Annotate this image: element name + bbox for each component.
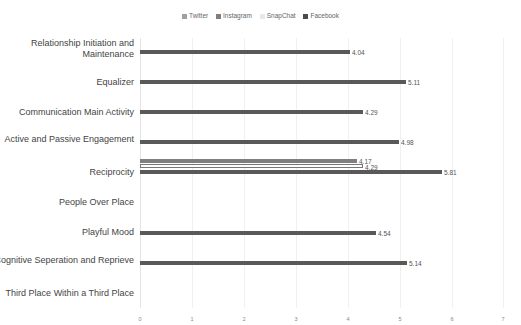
legend-item-twitter: Twitter — [182, 12, 208, 19]
bar-snapchat — [140, 164, 363, 168]
x-tick: 7 — [501, 316, 504, 322]
x-tick: 5 — [398, 316, 401, 322]
category-label: Cognitive Seperation and Reprieve — [0, 255, 134, 266]
bar-facebook — [140, 170, 442, 174]
legend-swatch-icon — [216, 14, 221, 19]
x-tick: 0 — [138, 316, 141, 322]
bar-facebook — [140, 140, 399, 144]
plot-area: 4.04 5.11 4.29 4.98 4.17 4.29 5.81 4.54 … — [140, 38, 504, 308]
x-tick: 1 — [190, 316, 193, 322]
legend-swatch-icon — [303, 14, 308, 19]
legend-swatch-icon — [260, 14, 265, 19]
category-label: Equalizer — [0, 77, 134, 88]
bar-facebook — [140, 110, 363, 114]
bar-facebook — [140, 231, 376, 235]
category-label: Reciprocity — [0, 167, 134, 178]
x-tick: 3 — [294, 316, 297, 322]
data-label: 4.98 — [401, 139, 414, 146]
legend-label: SnapChat — [267, 12, 296, 19]
x-tick: 6 — [450, 316, 453, 322]
category-label: Active and Passive Engagement — [0, 134, 134, 145]
data-label: 5.14 — [409, 260, 422, 267]
bar-facebook — [140, 50, 350, 54]
legend-item-instagram: Instagram — [216, 12, 252, 19]
data-label: 4.54 — [378, 230, 391, 237]
legend-label: Twitter — [189, 12, 208, 19]
legend-label: Instagram — [223, 12, 252, 19]
gridline — [503, 38, 504, 308]
data-label: 4.29 — [365, 109, 378, 116]
data-label: 5.11 — [408, 79, 420, 86]
category-label: Relationship Initiation and Maintenance — [0, 38, 134, 60]
category-label: Third Place Within a Third Place — [0, 288, 134, 299]
x-tick: 4 — [346, 316, 349, 322]
legend-label: Facebook — [310, 12, 339, 19]
category-label: Playful Mood — [0, 227, 134, 238]
data-label: 5.81 — [444, 169, 457, 176]
bar-facebook — [140, 80, 406, 84]
legend-item-snapchat: SnapChat — [260, 12, 296, 19]
category-label: Communication Main Activity — [0, 107, 134, 118]
legend-item-facebook: Facebook — [303, 12, 339, 19]
category-label: People Over Place — [0, 197, 134, 208]
chart-legend: Twitter Instagram SnapChat Facebook — [0, 12, 521, 19]
bar-facebook — [140, 261, 407, 265]
data-label: 4.04 — [352, 49, 365, 56]
legend-swatch-icon — [182, 14, 187, 19]
x-tick: 2 — [242, 316, 245, 322]
bar-instagram — [140, 159, 357, 163]
